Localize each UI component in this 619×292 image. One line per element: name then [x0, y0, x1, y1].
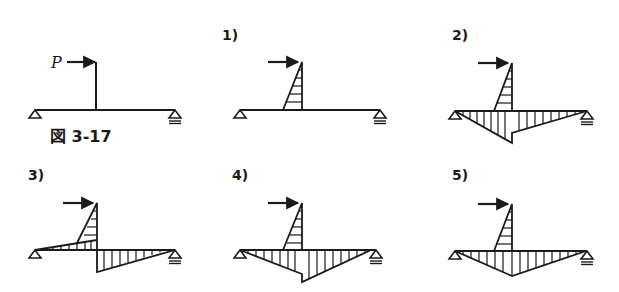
panel-4 [234, 203, 382, 282]
panel-2 [449, 63, 593, 143]
load-label: P [50, 53, 62, 72]
figure-caption: 図 3-17 [50, 127, 112, 146]
panel-label-5: 5) [452, 167, 468, 183]
diagram-canvas: P 図 3-17 1) 2) [0, 0, 619, 292]
pin-support-icon [234, 110, 246, 118]
panel-1 [234, 62, 386, 124]
beam-moment-hatching [463, 251, 576, 276]
panel-label-2: 2) [452, 27, 468, 43]
roller-support-icon [374, 110, 386, 124]
panel-5 [449, 204, 593, 276]
post-moment-diagram [77, 203, 97, 243]
beam-moment-hatching [248, 250, 365, 279]
panel-label-1: 1) [222, 27, 238, 43]
beam-left-diagram [35, 240, 97, 250]
pin-support-icon [29, 250, 41, 258]
roller-support-icon [169, 110, 181, 124]
panel-3 [29, 203, 181, 272]
beam-moment-diagram [240, 250, 371, 282]
post-moment-hatching [287, 211, 302, 243]
panel-label-4: 4) [232, 167, 248, 183]
panel-label-3: 3) [28, 167, 44, 183]
roller-support-icon [370, 250, 382, 264]
pin-support-icon [449, 111, 461, 119]
pin-support-icon [29, 110, 41, 118]
